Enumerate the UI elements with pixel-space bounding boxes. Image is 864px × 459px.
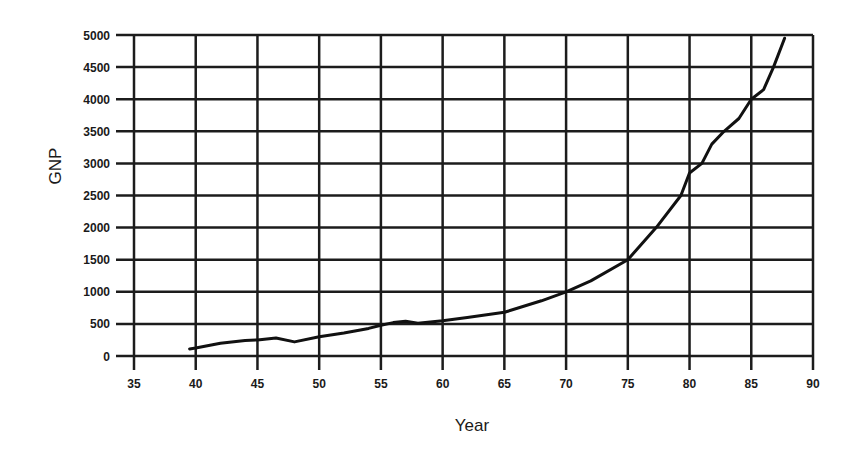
y-tick-label: 2500 (83, 189, 110, 203)
x-tick-label: 35 (127, 377, 141, 391)
vertical-gridlines (134, 35, 813, 370)
y-tick-label: 4500 (83, 61, 110, 75)
y-tick-label: 3000 (83, 157, 110, 171)
x-tick-label: 80 (683, 377, 697, 391)
horizontal-gridlines (116, 35, 813, 356)
y-tick-label: 500 (90, 317, 110, 331)
y-tick-label: 1000 (83, 285, 110, 299)
x-axis-tick-labels: 354045505560657075808590 (127, 377, 820, 391)
x-axis-title: Year (455, 416, 490, 435)
y-tick-label: 2000 (83, 221, 110, 235)
gnp-data-line (190, 38, 785, 349)
x-tick-label: 70 (559, 377, 573, 391)
x-tick-label: 45 (251, 377, 265, 391)
y-tick-label: 4000 (83, 93, 110, 107)
y-tick-label: 3500 (83, 125, 110, 139)
y-tick-label: 5000 (83, 29, 110, 43)
y-axis-tick-labels: 0500100015002000250030003500400045005000 (83, 29, 110, 364)
x-tick-label: 60 (436, 377, 450, 391)
gnp-line-chart: 0500100015002000250030003500400045005000… (0, 0, 864, 459)
y-tick-label: 1500 (83, 253, 110, 267)
x-tick-label: 65 (498, 377, 512, 391)
y-tick-label: 0 (103, 350, 110, 364)
x-tick-label: 50 (313, 377, 327, 391)
chart-svg: 0500100015002000250030003500400045005000… (0, 0, 864, 459)
x-tick-label: 55 (374, 377, 388, 391)
x-tick-label: 75 (621, 377, 635, 391)
x-tick-label: 85 (745, 377, 759, 391)
y-axis-title: GNP (46, 148, 65, 185)
x-tick-label: 40 (189, 377, 203, 391)
x-tick-label: 90 (806, 377, 820, 391)
